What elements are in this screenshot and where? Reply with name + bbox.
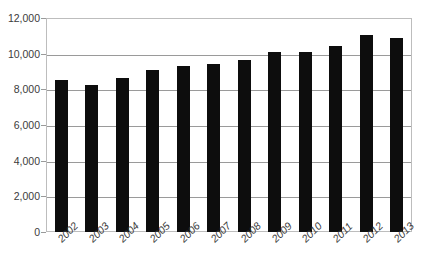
bar (116, 78, 129, 232)
y-axis-tick-label: 0 (34, 226, 40, 238)
bar (360, 35, 373, 232)
y-axis-tick-label: 6,000 (14, 119, 40, 131)
bar (329, 46, 342, 232)
bar (238, 60, 251, 232)
y-axis-tick-label: 12,000 (8, 12, 40, 24)
y-axis-tick-label: 8,000 (14, 83, 40, 95)
bar (299, 52, 312, 232)
bar (177, 66, 190, 232)
bar (85, 85, 98, 232)
bar (146, 70, 159, 232)
y-axis: 02,0004,0006,0008,00010,00012,000 (0, 18, 40, 232)
bar (390, 38, 403, 232)
y-axis-tick-label: 2,000 (14, 190, 40, 202)
bar-chart: 02,0004,0006,0008,00010,00012,000 200220… (0, 0, 421, 268)
bar (207, 64, 220, 232)
bar (268, 52, 281, 232)
chart-title (6, 0, 416, 3)
bar (55, 80, 68, 232)
y-axis-tick-label: 4,000 (14, 155, 40, 167)
bar-series (46, 18, 412, 232)
y-axis-tick-label: 10,000 (8, 48, 40, 60)
x-axis: 2002200320042005200620072008200920102011… (46, 232, 412, 268)
